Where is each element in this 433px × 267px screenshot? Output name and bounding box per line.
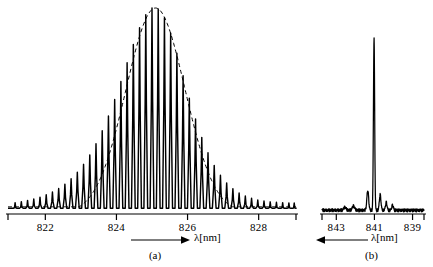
- spectra-figure: 822 824 826 828 λ[nm] (a) 843 841 839 λ[…: [0, 0, 433, 267]
- panel-b-caption: (b): [310, 250, 433, 261]
- panel-a-axis-label: λ[nm]: [194, 232, 221, 243]
- panel-b-axis-arrow-icon: [316, 234, 368, 246]
- panel-a: 822 824 826 828 λ[nm] (a): [0, 0, 310, 267]
- panel-a-tick-label: 822: [25, 222, 65, 233]
- panel-b-tick-label: 843: [316, 222, 356, 233]
- panel-b-tick-label: 839: [393, 222, 433, 233]
- panel-b: 843 841 839 λ[nm] (b): [310, 0, 433, 267]
- panel-a-tick-label: 824: [96, 222, 136, 233]
- panel-b-axis-label: λ[nm]: [371, 232, 398, 243]
- panel-a-caption: (a): [0, 250, 310, 261]
- panel-a-tick-label: 828: [239, 222, 279, 233]
- panel-a-axis-arrow-icon: [131, 234, 191, 246]
